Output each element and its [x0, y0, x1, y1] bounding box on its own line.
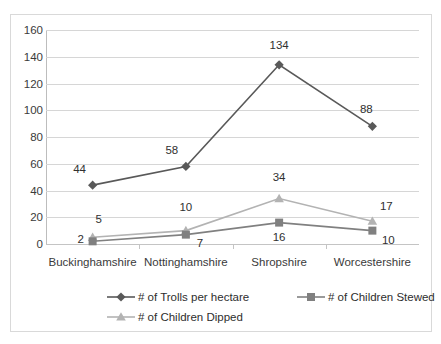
data-label-s1-p0: 2: [77, 233, 83, 245]
legend-label-1: # of Children Stewed: [328, 291, 435, 303]
legend-item-2[interactable]: # of Children Dipped: [106, 311, 243, 323]
y-tick-label-20: 20: [13, 211, 43, 223]
square-marker-icon: [89, 237, 97, 245]
square-marker-icon: [275, 219, 283, 227]
data-label-s1-p3: 10: [382, 234, 395, 246]
series-line-2: [93, 199, 373, 238]
data-label-s2-p2: 34: [273, 171, 286, 183]
x-axis-label-1: Nottinghamshire: [144, 256, 228, 268]
data-label-s0-p1: 58: [165, 144, 178, 156]
y-tick-label-60: 60: [13, 158, 43, 170]
x-axis-tick: [326, 244, 327, 249]
y-tick-label-100: 100: [13, 104, 43, 116]
x-axis-label-0: Buckinghamshire: [49, 256, 137, 268]
legend-swatch-2: [106, 311, 136, 323]
legend-label-0: # of Trolls per hectare: [138, 291, 249, 303]
legend-swatch-0: [106, 291, 136, 303]
data-label-s0-p2: 134: [270, 39, 289, 51]
x-axis-tick: [139, 244, 140, 249]
y-tick-label-120: 120: [13, 78, 43, 90]
series-line-1: [93, 223, 373, 242]
data-label-s1-p2: 16: [273, 231, 286, 243]
x-axis-tick: [233, 244, 234, 249]
y-tick-label-160: 160: [13, 24, 43, 36]
data-label-s0-p0: 44: [73, 163, 86, 175]
square-marker-icon: [182, 231, 190, 239]
legend-item-1[interactable]: # of Children Stewed: [296, 291, 435, 303]
data-label-s2-p3: 17: [380, 200, 393, 212]
legend-item-0[interactable]: # of Trolls per hectare: [106, 291, 249, 303]
y-tick-label-40: 40: [13, 185, 43, 197]
plot-area: [46, 30, 419, 244]
y-tick-label-80: 80: [13, 131, 43, 143]
series-lines: [46, 30, 419, 244]
diamond-marker-icon: [368, 122, 377, 131]
legend-swatch-1: [296, 291, 326, 303]
y-tick-label-0: 0: [13, 238, 43, 250]
series-line-0: [93, 65, 373, 185]
data-label-s0-p3: 88: [360, 103, 373, 115]
diamond-marker-icon: [116, 292, 125, 301]
data-label-s1-p1: 7: [197, 237, 203, 249]
data-label-s2-p0: 5: [95, 213, 101, 225]
diamond-marker-icon: [88, 181, 97, 190]
y-axis-tick-labels: 020406080100120140160: [11, 30, 43, 244]
chart-frame: 020406080100120140160 BuckinghamshireNot…: [10, 14, 432, 332]
x-axis-label-3: Worcestershire: [334, 256, 411, 268]
legend-label-2: # of Children Dipped: [138, 311, 243, 323]
data-label-s2-p1: 10: [179, 201, 192, 213]
triangle-marker-icon: [274, 194, 284, 202]
x-axis-label-2: Shropshire: [251, 256, 307, 268]
y-tick-label-140: 140: [13, 51, 43, 63]
square-marker-icon: [307, 293, 315, 301]
square-marker-icon: [368, 227, 376, 235]
